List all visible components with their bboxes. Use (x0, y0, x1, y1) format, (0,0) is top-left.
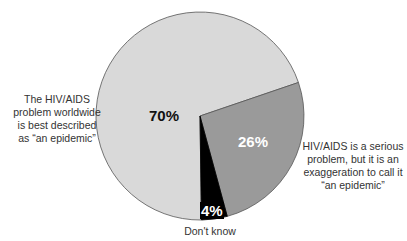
pct-26-label: 26% (238, 133, 268, 150)
label-epidemic: The HIV/AIDS problem worldwide is best d… (2, 93, 112, 145)
label-dont-know: Don't know (170, 225, 250, 238)
label-exaggeration: HIV/AIDS is a serious problem, but it is… (300, 140, 406, 192)
pct-70-label: 70% (149, 107, 179, 124)
pct-4-label: 4% (200, 202, 224, 219)
